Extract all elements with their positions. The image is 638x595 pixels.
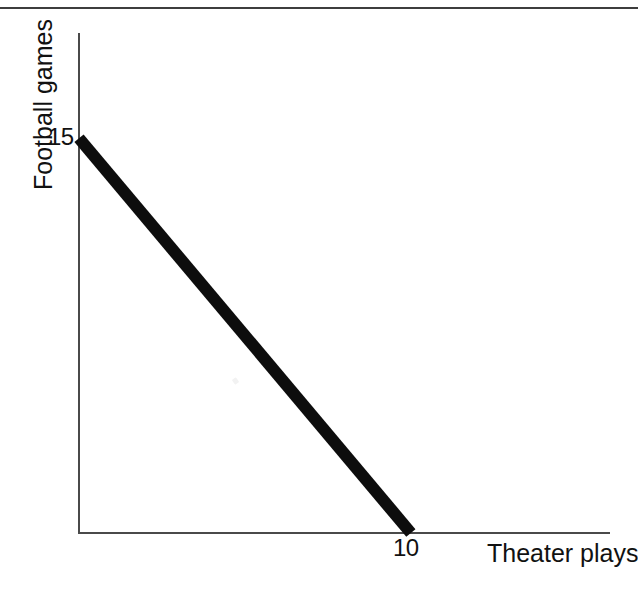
y-axis-title: Football games [31, 10, 56, 200]
budget-constraint-line [79, 138, 411, 533]
chart-figure: 15 10 Football games Theater plays [0, 0, 638, 595]
x-axis-line [78, 532, 610, 534]
scan-artifact-speck [232, 377, 240, 385]
x-axis-title: Theater plays [487, 541, 638, 566]
y-axis-line [78, 33, 80, 534]
x-axis-tick-label-10: 10 [393, 536, 419, 560]
constraint-line-svg [0, 0, 638, 595]
